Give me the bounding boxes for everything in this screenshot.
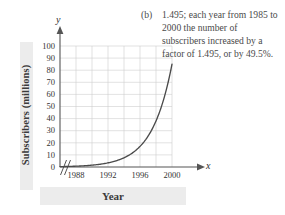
y-tick-label: 40 [33,114,55,123]
y-tick-label: 90 [33,54,55,63]
y-tick-label: 50 [33,102,55,111]
x-tick-label: 2000 [154,171,190,180]
answer-part-label: (b) [141,8,161,21]
y-tick-label: 10 [33,151,55,160]
figure-container: Subscribers (millions) Year y x 01020304… [0,0,285,215]
y-tick-label: 20 [33,139,55,148]
y-tick-label: 100 [33,42,55,51]
x-tick-label: 1988 [58,171,94,180]
y-tick-label: 70 [33,78,55,87]
grid-lines [60,46,172,167]
y-tick-label: 80 [33,66,55,75]
y-tick-label: 30 [33,126,55,135]
x-tick-label: 1996 [122,171,158,180]
y-tick-label: 60 [33,90,55,99]
answer-body-text: 1.495; each year from 1985 to 2000 the n… [162,8,282,60]
answer-annotation: (b) 1.495; each year from 1985 to 2000 t… [162,8,282,60]
x-tick-label: 1992 [90,171,126,180]
y-tick-label: 0 [33,163,55,172]
data-curve [60,64,172,166]
